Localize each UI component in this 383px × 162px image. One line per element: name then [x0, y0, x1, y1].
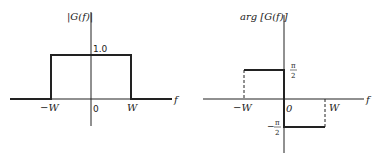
right-tick-neg-w: −W: [233, 102, 252, 113]
level-label: 1.0: [93, 44, 108, 54]
magnitude-plot: |G(f)| 1.0 −W 0 W f: [10, 11, 180, 126]
left-y-label: |G(f)|: [67, 11, 93, 23]
phase-plot: arg [G(f)] π 2 − π 2 −W 0 W f: [203, 11, 372, 153]
right-y-label: arg [G(f)]: [240, 11, 288, 22]
tick-w: W: [127, 102, 138, 113]
tick-zero: 0: [93, 104, 99, 114]
right-tick-zero: 0: [286, 103, 293, 114]
right-x-label: f: [365, 94, 372, 105]
tick-neg-w: −W: [40, 102, 59, 113]
figure: |G(f)| 1.0 −W 0 W f arg [G(f)] π 2 − π 2…: [0, 0, 383, 162]
neg-sign: −: [267, 121, 275, 131]
pi-half-num: π: [291, 62, 296, 70]
neg-pi-half-num: π: [275, 119, 280, 127]
neg-pi-half-den: 2: [275, 129, 279, 137]
pi-half-den: 2: [291, 72, 295, 80]
right-tick-w: W: [329, 102, 340, 113]
left-x-label: f: [173, 94, 180, 105]
